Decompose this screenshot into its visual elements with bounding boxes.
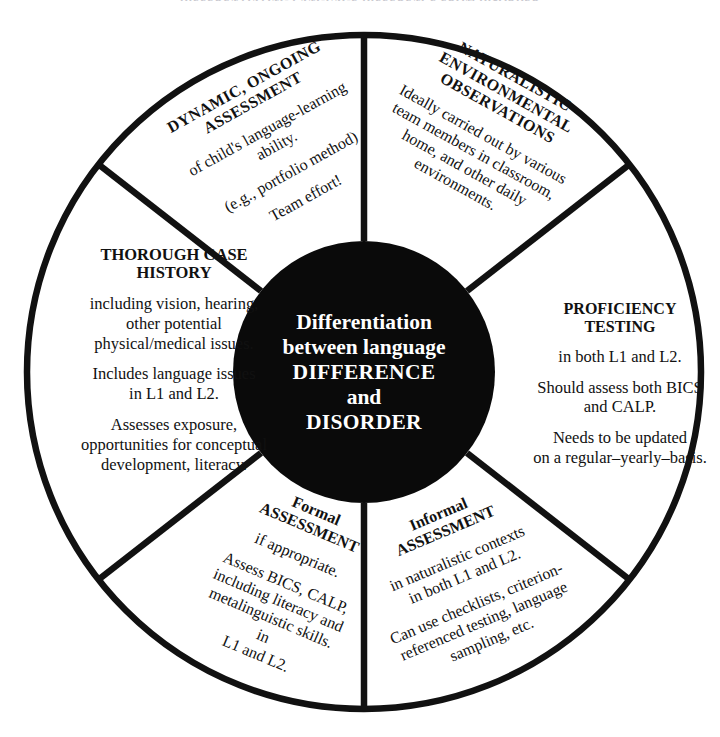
body-line: development, literacy. <box>40 455 308 475</box>
segment-body: including vision, hearing, other potenti… <box>40 294 308 474</box>
segment-heading-line-2: HISTORY <box>40 264 308 282</box>
body-line: opportunities for conceptual <box>40 435 308 455</box>
body-line: in L1 and L2. <box>40 384 308 404</box>
spacer <box>506 336 720 347</box>
body-line: Should assess both BICS <box>506 378 720 398</box>
spacer <box>40 404 308 415</box>
segment-thorough-case-history: THOROUGH CASE HISTORY including vision, … <box>40 246 308 474</box>
body-line: Assesses exposure, <box>40 415 308 435</box>
wheel-diagram: DIFFERENTIATING LANGUAGE DIFFERENCE FROM… <box>0 0 720 737</box>
segment-heading: THOROUGH CASE HISTORY <box>40 246 308 283</box>
body-line: and CALP. <box>506 397 720 417</box>
spacer <box>506 417 720 428</box>
segment-heading-line-1: PROFICIENCY <box>506 300 720 318</box>
segment-heading-line-1: THOROUGH CASE <box>40 246 308 264</box>
body-line: other potential <box>40 314 308 334</box>
body-line: physical/medical issues. <box>40 334 308 354</box>
body-line: in both L1 and L2. <box>506 347 720 367</box>
segment-heading-line-2: TESTING <box>506 318 720 336</box>
spacer <box>40 353 308 364</box>
spacer <box>506 367 720 378</box>
body-line: Needs to be updated <box>506 428 720 448</box>
segment-heading: PROFICIENCY TESTING <box>506 300 720 336</box>
spacer <box>40 283 308 294</box>
body-line: including vision, hearing, <box>40 294 308 314</box>
body-line: Includes language issues <box>40 364 308 384</box>
segment-proficiency-testing: PROFICIENCY TESTING in both L1 and L2. S… <box>506 300 720 468</box>
segment-body: in both L1 and L2. Should assess both BI… <box>506 347 720 468</box>
